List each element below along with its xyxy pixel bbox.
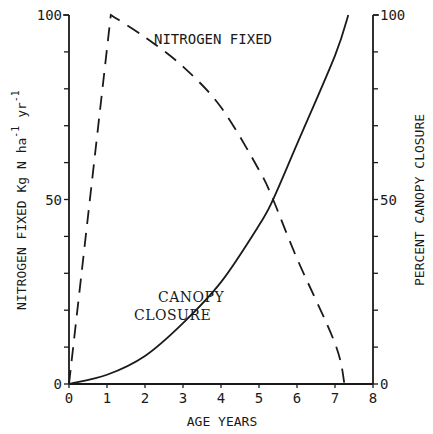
labels: NITROGEN FIXEDCANOPYCLOSUREAGE YEARSNITR… — [10, 31, 427, 429]
ticks: 012345678050100050100 — [37, 7, 406, 406]
nitrogen-fixed-line — [69, 15, 345, 384]
x-tick-label: 3 — [179, 390, 187, 406]
x-tick-label: 5 — [255, 390, 263, 406]
chart-canvas: 012345678050100050100 NITROGEN FIXEDCANO… — [0, 0, 433, 434]
series — [69, 15, 348, 384]
x-tick-label: 6 — [293, 390, 301, 406]
left-y-tick-label: 50 — [45, 192, 62, 208]
x-tick-label: 1 — [103, 390, 111, 406]
nitrogen-fixed-annotation: NITROGEN FIXED — [154, 31, 272, 47]
closure-annotation: CLOSURE — [134, 307, 211, 323]
right-y-axis-title: PERCENT CANOPY CLOSURE — [412, 114, 427, 286]
right-y-tick-label: 100 — [380, 7, 405, 23]
x-tick-label: 8 — [369, 390, 377, 406]
right-y-tick-label: 0 — [380, 376, 388, 392]
x-tick-label: 7 — [331, 390, 339, 406]
left-y-tick-label: 100 — [37, 7, 62, 23]
x-tick-label: 2 — [141, 390, 149, 406]
x-axis-title: AGE YEARS — [187, 414, 257, 429]
canopy-closure-line — [69, 15, 348, 384]
left-y-axis-title: NITROGEN FIXED Kg N ha-1 yr-1 — [10, 90, 29, 310]
canopy-annotation: CANOPY — [158, 289, 224, 305]
left-y-tick-label: 0 — [54, 376, 62, 392]
right-y-tick-label: 50 — [380, 192, 397, 208]
axes — [63, 15, 379, 384]
x-tick-label: 4 — [217, 390, 225, 406]
x-tick-label: 0 — [65, 390, 73, 406]
